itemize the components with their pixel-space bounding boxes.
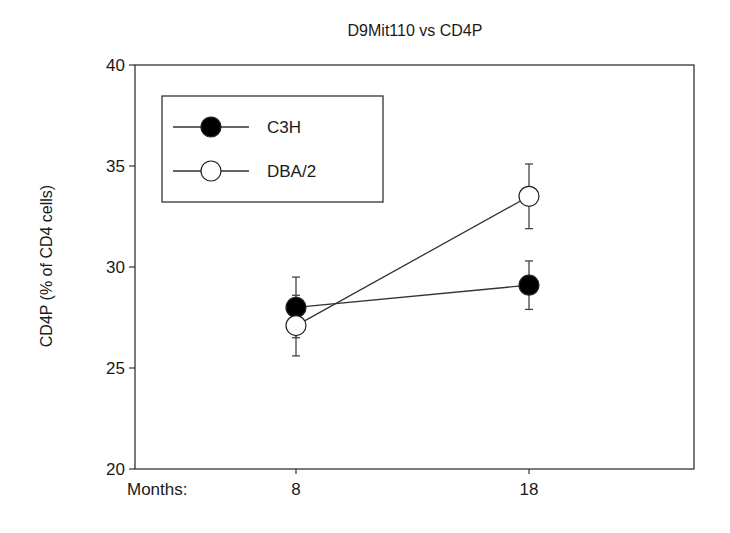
series-line xyxy=(296,196,529,325)
legend-label: C3H xyxy=(267,118,301,137)
y-tick-label: 35 xyxy=(106,157,125,176)
legend-open-circle-icon xyxy=(201,161,221,181)
y-tick-label: 40 xyxy=(106,56,125,75)
legend-filled-circle-icon xyxy=(201,117,221,137)
legend-label: DBA/2 xyxy=(267,162,316,181)
series-line xyxy=(296,285,529,307)
y-tick-label: 25 xyxy=(106,359,125,378)
open-circle-marker xyxy=(519,186,539,206)
x-axis-label: Months: xyxy=(127,480,187,499)
chart-canvas: 2025303540818Months:C3HDBA/2 xyxy=(0,0,730,533)
filled-circle-marker xyxy=(519,275,539,295)
legend-box xyxy=(162,96,383,202)
y-tick-label: 20 xyxy=(106,460,125,479)
y-tick-label: 30 xyxy=(106,258,125,277)
open-circle-marker xyxy=(286,316,306,336)
x-tick-label: 8 xyxy=(291,480,300,499)
filled-circle-marker xyxy=(286,297,306,317)
x-tick-label: 18 xyxy=(520,480,539,499)
